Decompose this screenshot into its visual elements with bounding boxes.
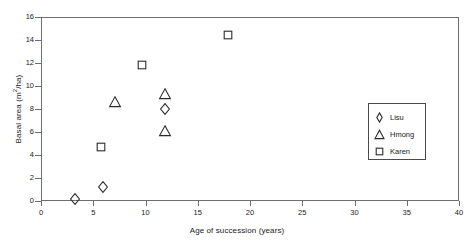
y-tick [35, 86, 41, 87]
x-tick [407, 201, 408, 206]
triangle-marker-icon [374, 129, 385, 140]
x-tick-label: 35 [392, 208, 422, 217]
x-tick [355, 201, 356, 206]
x-tick-label: 40 [444, 208, 474, 217]
x-tick-label: 0 [26, 208, 56, 217]
x-tick-label: 30 [340, 208, 370, 217]
legend: Lisu Hmong Karen [368, 103, 426, 160]
y-tick [35, 109, 41, 110]
y-tick-label: 0 [10, 197, 34, 205]
y-tick [35, 40, 41, 41]
legend-item-hmong: Hmong [374, 128, 414, 140]
x-tick [146, 201, 147, 206]
x-tick-label: 5 [78, 208, 108, 217]
y-tick [35, 132, 41, 133]
x-tick [93, 201, 94, 206]
diamond-marker-icon [374, 112, 385, 123]
square-marker-icon [374, 146, 385, 157]
y-axis-title: Basal area (m2/ha) [14, 34, 24, 184]
x-tick [250, 201, 251, 206]
y-axis-title-tail: /ha) [14, 75, 23, 89]
x-tick-label: 20 [235, 208, 265, 217]
y-tick [35, 17, 41, 18]
legend-label-lisu: Lisu [390, 113, 404, 122]
x-tick [198, 201, 199, 206]
x-tick-label: 25 [287, 208, 317, 217]
y-tick-label: 16 [10, 13, 34, 21]
scatter-plot-figure: 0246810121416 0510152025303540 Age of su… [0, 0, 474, 248]
legend-item-karen: Karen [374, 145, 410, 157]
y-axis-title-exponent: 2 [12, 89, 18, 92]
legend-label-hmong: Hmong [390, 130, 414, 139]
y-tick [35, 155, 41, 156]
legend-label-karen: Karen [390, 147, 410, 156]
x-tick [459, 201, 460, 206]
x-tick [41, 201, 42, 206]
x-tick [302, 201, 303, 206]
x-tick-label: 10 [131, 208, 161, 217]
y-tick [35, 63, 41, 64]
y-tick [35, 178, 41, 179]
legend-item-lisu: Lisu [374, 111, 404, 123]
x-axis-title: Age of succession (years) [0, 226, 474, 236]
x-tick-label: 15 [183, 208, 213, 217]
y-axis-title-base: Basal area (m [14, 92, 23, 143]
